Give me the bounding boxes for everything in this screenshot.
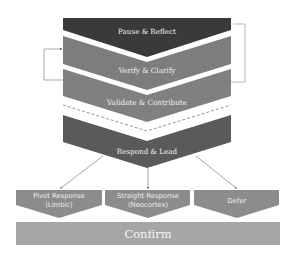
stage-respond-lead-shape xyxy=(63,115,231,168)
loop-arrow-left xyxy=(44,49,63,80)
outcome-straight-line2: (Neocortex) xyxy=(128,201,169,209)
loop-arrow-right xyxy=(231,24,245,82)
confirm-label: Confirm xyxy=(124,227,171,241)
outcome-defer-label: Defer xyxy=(228,197,247,205)
stage-label-verify-clarify: Verify & Clarify xyxy=(118,66,177,75)
stage-label-validate-contribute: Validate & Contribute xyxy=(106,98,187,107)
arrow-to-pivot xyxy=(61,156,103,188)
outcome-pivot-line2: (Limbic) xyxy=(45,201,73,209)
outcome-pivot-line1: Pivot Response xyxy=(33,192,85,200)
outcome-straight-line1: Straight Response xyxy=(117,192,179,200)
arrow-to-defer xyxy=(196,156,236,188)
process-diagram: Pause & Reflect Verify & Clarify Validat… xyxy=(0,0,296,260)
stage-label-pause-reflect: Pause & Reflect xyxy=(118,27,176,36)
stage-label-respond-lead: Respond & Lead xyxy=(117,147,178,156)
